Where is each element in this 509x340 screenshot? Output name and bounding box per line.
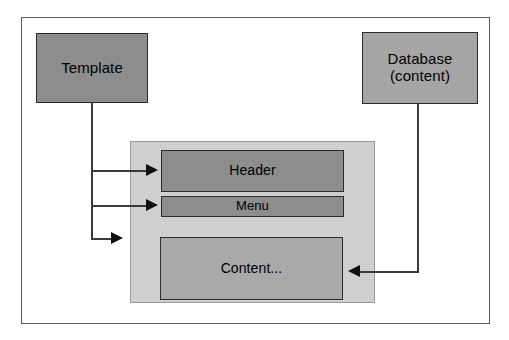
database-label-line1: Database — [387, 51, 452, 68]
template-to-menu-line — [91, 205, 148, 207]
template-label: Template — [61, 60, 123, 77]
menu-label: Menu — [236, 199, 269, 214]
template-to-page-line — [91, 238, 113, 240]
template-to-page-arrowhead — [111, 232, 123, 244]
menu-box[interactable]: Menu — [161, 196, 344, 217]
diagram-canvas: Template Database (content) Header Menu … — [0, 0, 509, 340]
content-box[interactable]: Content... — [160, 237, 343, 300]
template-to-menu-arrowhead — [146, 199, 158, 211]
header-label: Header — [229, 163, 276, 179]
database-to-content-arrowhead — [348, 265, 360, 277]
database-box[interactable]: Database (content) — [362, 32, 478, 104]
database-trunk-line — [417, 104, 419, 272]
header-box[interactable]: Header — [161, 150, 344, 192]
template-box[interactable]: Template — [36, 33, 148, 103]
content-label: Content... — [221, 261, 283, 277]
template-to-header-arrowhead — [146, 164, 158, 176]
database-label-line2: (content) — [390, 68, 450, 85]
template-to-header-line — [91, 170, 148, 172]
database-to-content-line — [360, 271, 419, 273]
